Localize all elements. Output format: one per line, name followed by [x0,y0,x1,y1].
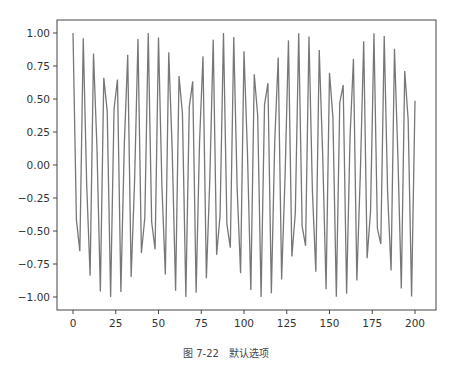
x-tick-label: 0 [70,317,77,329]
x-tick-label: 200 [405,317,425,329]
y-tick-label: −1.00 [18,291,50,303]
y-tick-label: −0.25 [18,192,50,204]
plot-area [57,20,436,310]
y-axis-ticks: 1.000.750.500.250.00−0.25−0.50−0.75−1.00 [18,27,57,303]
x-tick-label: 125 [277,317,297,329]
x-axis-ticks: 0255075100125150175200 [70,310,425,329]
figure-caption: 图 7-22 默认选项 [0,345,452,360]
x-tick-label: 25 [109,317,122,329]
x-tick-label: 150 [319,317,339,329]
y-tick-label: 1.00 [27,27,50,39]
y-tick-label: 0.00 [27,159,50,171]
x-tick-label: 75 [195,317,208,329]
y-tick-label: 0.50 [27,93,50,105]
y-tick-label: −0.50 [18,225,50,237]
x-tick-label: 50 [152,317,165,329]
x-tick-label: 100 [234,317,254,329]
y-tick-label: 0.25 [27,126,50,138]
line-chart: 1.000.750.500.250.00−0.25−0.50−0.75−1.00… [0,0,452,367]
y-tick-label: −0.75 [18,258,50,270]
y-tick-label: 0.75 [27,60,50,72]
x-tick-label: 175 [362,317,382,329]
